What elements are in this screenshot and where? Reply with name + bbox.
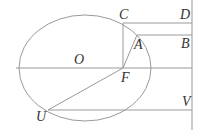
label-V: V	[182, 94, 192, 109]
line-FU	[48, 68, 123, 110]
label-B: B	[181, 36, 190, 51]
label-O: O	[74, 52, 84, 67]
label-U: U	[36, 109, 47, 124]
label-C: C	[119, 7, 129, 22]
label-D: D	[179, 7, 190, 22]
label-A: A	[133, 37, 143, 52]
ellipse-focus-diagram: C D A B O F U V	[0, 0, 206, 137]
label-F: F	[120, 70, 130, 85]
